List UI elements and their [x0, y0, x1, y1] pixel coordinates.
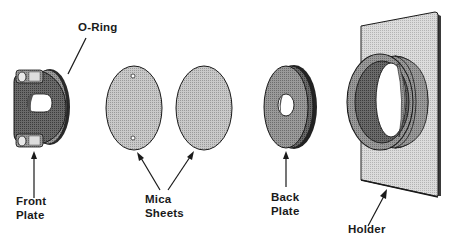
- mica-sheet-1: [106, 66, 162, 150]
- back-plate-label-2: Plate: [271, 205, 300, 217]
- front-plate-arrow: [31, 151, 37, 198]
- front-plate-label-1: Front: [16, 195, 46, 207]
- back-plate-label-1: Back: [271, 191, 300, 203]
- holder: [347, 12, 441, 197]
- mica-label-2: Sheets: [145, 207, 184, 219]
- back-plate: [264, 65, 317, 149]
- mica-hole-top: [131, 74, 135, 78]
- front-plate: [14, 69, 70, 147]
- mica-arrow-left: [137, 152, 160, 190]
- back-plate-arrow: [283, 151, 289, 187]
- mica-hole-bottom: [131, 136, 135, 140]
- exploded-diagram: O-Ring Front Plate Mica Sheets Back Plat…: [0, 0, 449, 241]
- holder-label: Holder: [348, 223, 386, 235]
- mica-arrow-right: [168, 151, 194, 190]
- o-ring-leader: [68, 38, 86, 74]
- o-ring-label: O-Ring: [78, 21, 118, 33]
- front-plate-label-2: Plate: [16, 209, 45, 221]
- holder-arrow: [368, 189, 387, 226]
- mica-sheet-2: [176, 66, 232, 150]
- mica-label-1: Mica: [145, 193, 172, 205]
